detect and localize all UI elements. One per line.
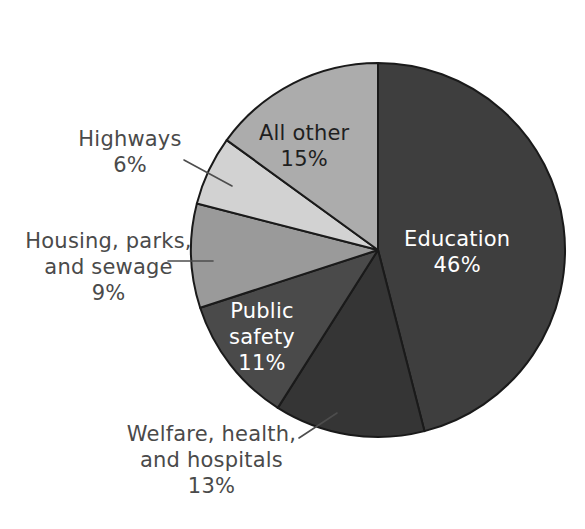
slice-label-housing-parks-sewage-name-line1: Housing, parks, xyxy=(6,228,211,254)
slice-label-education-value: 46% xyxy=(404,252,510,278)
slice-label-all-other-value: 15% xyxy=(259,146,349,172)
slice-label-housing-parks-sewage-value: 9% xyxy=(6,280,211,306)
slice-label-welfare-health-hospitals: Welfare, health, and hospitals 13% xyxy=(104,421,319,499)
slice-label-public-safety-value: 11% xyxy=(229,350,295,376)
slice-label-all-other-name: All other xyxy=(259,120,349,146)
slice-label-welfare-health-hospitals-name-line2: and hospitals xyxy=(104,447,319,473)
slice-label-education-name: Education xyxy=(404,226,510,252)
slice-label-highways-value: 6% xyxy=(55,152,205,178)
slice-label-welfare-health-hospitals-value: 13% xyxy=(104,473,319,499)
slice-label-education: Education 46% xyxy=(404,226,510,278)
pie-chart-figure: Education 46% All other 15% Public safet… xyxy=(0,0,585,529)
slice-label-public-safety-name-line2: safety xyxy=(229,324,295,350)
slice-label-public-safety-name-line1: Public xyxy=(229,298,295,324)
slice-label-welfare-health-hospitals-name-line1: Welfare, health, xyxy=(104,421,319,447)
slice-label-housing-parks-sewage: Housing, parks, and sewage 9% xyxy=(6,228,211,306)
slice-label-highways: Highways 6% xyxy=(55,126,205,178)
slice-label-highways-name: Highways xyxy=(55,126,205,152)
slice-label-public-safety: Public safety 11% xyxy=(229,298,295,376)
slice-label-all-other: All other 15% xyxy=(259,120,349,172)
slice-label-housing-parks-sewage-name-line2: and sewage xyxy=(6,254,211,280)
